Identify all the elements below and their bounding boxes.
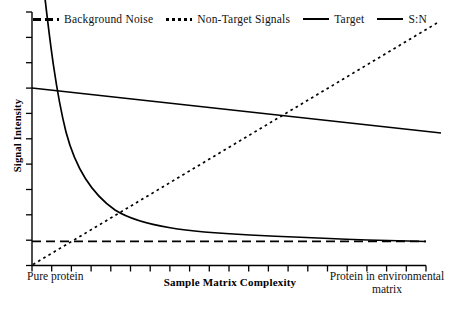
series-non-target-signals bbox=[33, 23, 437, 265]
plot-canvas bbox=[0, 0, 460, 309]
chart-figure: Background Noise Non-Target Signals Targ… bbox=[0, 0, 460, 309]
series-signal-to-noise bbox=[45, 0, 427, 242]
y-axis-title: Signal Intensity bbox=[12, 76, 23, 196]
y-axis-ticks bbox=[26, 12, 32, 266]
series-target bbox=[32, 88, 441, 133]
x-tick-label-pure-protein: Pure protein bbox=[27, 270, 84, 283]
x-tick-label-environmental-matrix: Protein in environmental matrix bbox=[322, 270, 452, 296]
axes-group bbox=[32, 12, 426, 266]
